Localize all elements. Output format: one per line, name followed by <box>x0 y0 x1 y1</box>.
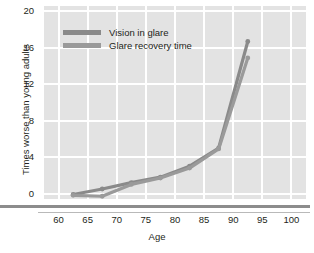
zero-axis-rule <box>0 205 310 208</box>
y-tick-label: 4 <box>0 151 34 162</box>
legend-swatch <box>63 43 101 48</box>
y-tick-label: 8 <box>0 115 34 126</box>
x-tick-label: 95 <box>247 214 277 225</box>
x-axis-line <box>38 212 310 213</box>
x-tick-label: 70 <box>102 214 132 225</box>
series-line-1 <box>73 42 248 195</box>
x-tick-label: 60 <box>44 214 74 225</box>
x-tick-label: 65 <box>73 214 103 225</box>
legend-item-1[interactable]: Vision in glare <box>63 26 192 39</box>
x-tick-label: 80 <box>160 214 190 225</box>
data-point <box>216 147 221 152</box>
data-point <box>100 194 105 199</box>
y-tick-label: 0 <box>0 188 34 199</box>
legend-item-2[interactable]: Glare recovery time <box>63 39 192 52</box>
data-point <box>245 55 250 60</box>
y-tick-label: 12 <box>0 78 34 89</box>
x-tick-label: 85 <box>189 214 219 225</box>
data-point <box>129 182 134 187</box>
legend-label: Glare recovery time <box>109 40 192 51</box>
data-point <box>71 193 76 198</box>
x-tick-label: 90 <box>218 214 248 225</box>
x-tick-label: 100 <box>276 214 306 225</box>
x-tick-label: 75 <box>131 214 161 225</box>
data-point <box>158 176 163 181</box>
y-tick-label: 20 <box>0 5 34 16</box>
data-point <box>100 187 105 192</box>
data-point <box>187 166 192 171</box>
data-point <box>245 39 250 44</box>
legend-label: Vision in glare <box>109 27 169 38</box>
chart-container: Times worse than young adults 048121620 … <box>0 0 314 253</box>
y-tick-label: 16 <box>0 42 34 53</box>
legend-swatch <box>63 30 101 35</box>
legend: Vision in glareGlare recovery time <box>63 26 192 52</box>
x-axis-title: Age <box>0 231 314 242</box>
